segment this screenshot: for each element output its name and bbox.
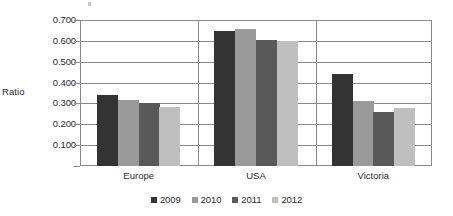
y-tick-label: 0.200 bbox=[38, 119, 76, 129]
legend-swatch-icon bbox=[192, 197, 198, 203]
bar-europe-2012 bbox=[159, 107, 180, 166]
bar-usa-2012 bbox=[277, 41, 298, 166]
bar-victoria-2012 bbox=[394, 108, 415, 166]
bar-usa-2011 bbox=[256, 40, 277, 166]
bar-victoria-2009 bbox=[332, 74, 353, 166]
legend-swatch-icon bbox=[232, 197, 238, 203]
bar-chart: Ratio 0.7000.6000.5000.4000.3000.2000.10… bbox=[0, 0, 453, 216]
y-tick-label: 0.500 bbox=[38, 57, 76, 67]
bar-europe-2010 bbox=[118, 100, 139, 166]
bar-europe-2009 bbox=[97, 95, 118, 166]
legend-swatch-icon bbox=[272, 197, 278, 203]
legend-label: 2009 bbox=[160, 194, 181, 205]
legend-label: 2011 bbox=[241, 194, 261, 205]
y-axis-tick-labels: 0.7000.6000.5000.4000.3000.2000.100- bbox=[38, 20, 76, 166]
bar-victoria-2011 bbox=[373, 112, 394, 166]
y-tick-label: 0.600 bbox=[38, 36, 76, 46]
y-tick-label: - bbox=[38, 161, 76, 171]
y-tick-label: 0.100 bbox=[38, 140, 76, 150]
bar-europe-2011 bbox=[139, 103, 160, 166]
legend-label: 2010 bbox=[201, 194, 222, 205]
chart-legend: 2009201020112012 bbox=[0, 194, 453, 205]
y-tick-label: 0.300 bbox=[38, 98, 76, 108]
x-axis-category-labels: EuropeUSAVictoria bbox=[80, 170, 432, 184]
y-axis-title: Ratio bbox=[2, 86, 42, 97]
bar-usa-2009 bbox=[214, 31, 235, 166]
legend-item-2011[interactable]: 2011 bbox=[232, 194, 261, 205]
y-tick-label: 0.700 bbox=[38, 15, 76, 25]
stray-mark bbox=[88, 2, 91, 6]
legend-label: 2012 bbox=[281, 194, 302, 205]
bar-victoria-2010 bbox=[353, 101, 374, 166]
bar-usa-2010 bbox=[235, 29, 256, 166]
category-label-usa: USA bbox=[197, 170, 314, 181]
legend-item-2012[interactable]: 2012 bbox=[272, 194, 302, 205]
legend-item-2010[interactable]: 2010 bbox=[192, 194, 222, 205]
y-tick-mark bbox=[74, 166, 80, 167]
category-label-victoria: Victoria bbox=[315, 170, 432, 181]
category-label-europe: Europe bbox=[80, 170, 197, 181]
bars-layer bbox=[80, 20, 432, 166]
legend-swatch-icon bbox=[151, 197, 157, 203]
y-tick-label: 0.400 bbox=[38, 78, 76, 88]
legend-item-2009[interactable]: 2009 bbox=[151, 194, 181, 205]
